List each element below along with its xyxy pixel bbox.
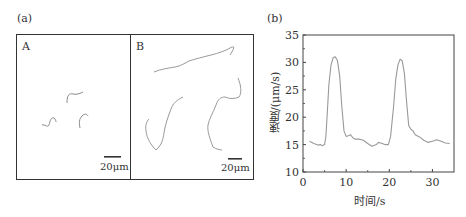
scale-bar-b	[228, 158, 242, 160]
y-tick-label: 35	[285, 29, 299, 42]
y-tick-label: 15	[285, 139, 299, 152]
speed-chart: 1015202530350102030	[270, 25, 466, 215]
x-tick-label: 30	[425, 176, 439, 189]
x-tick-label: 10	[339, 176, 353, 189]
x-tick-label: 0	[300, 176, 307, 189]
scale-bar-a	[104, 156, 121, 158]
filaments-a	[17, 35, 132, 181]
panel-a-label: (a)	[17, 12, 32, 25]
y-tick-label: 20	[285, 111, 299, 124]
scale-label-b: 20μm	[221, 162, 250, 173]
panel-b-label: (b)	[267, 12, 283, 25]
y-tick-label: 10	[285, 166, 299, 179]
micrograph-b: B 20μm	[130, 34, 254, 180]
scale-label-a: 20μm	[100, 161, 129, 172]
filaments-b	[131, 35, 255, 181]
micrograph-a: A 20μm	[16, 34, 131, 180]
y-tick-label: 30	[285, 56, 299, 69]
plot-frame	[303, 35, 454, 172]
x-tick-label: 20	[382, 176, 396, 189]
y-tick-label: 25	[285, 84, 299, 97]
speed-line	[310, 57, 450, 146]
